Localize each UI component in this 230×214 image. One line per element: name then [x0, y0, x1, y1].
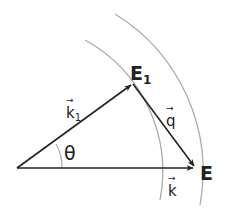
theta-label: θ [64, 142, 76, 164]
theta-angle-arc [56, 144, 62, 168]
outer-energy-shell-arc [115, 14, 203, 205]
k-label: k [168, 182, 177, 200]
inner-energy-shell-arc [85, 40, 163, 200]
k1-label: k1 [66, 104, 81, 123]
q-arrow-accent: → [166, 103, 174, 113]
k-arrow-accent: → [168, 173, 176, 183]
q-label: q [166, 112, 176, 130]
E-label: E [200, 162, 213, 184]
q-vector [133, 84, 194, 166]
scattering-diagram: E1 E k1 → q → k → θ [0, 0, 230, 214]
E1-label: E1 [130, 62, 151, 87]
k1-arrow-accent: → [66, 95, 74, 105]
